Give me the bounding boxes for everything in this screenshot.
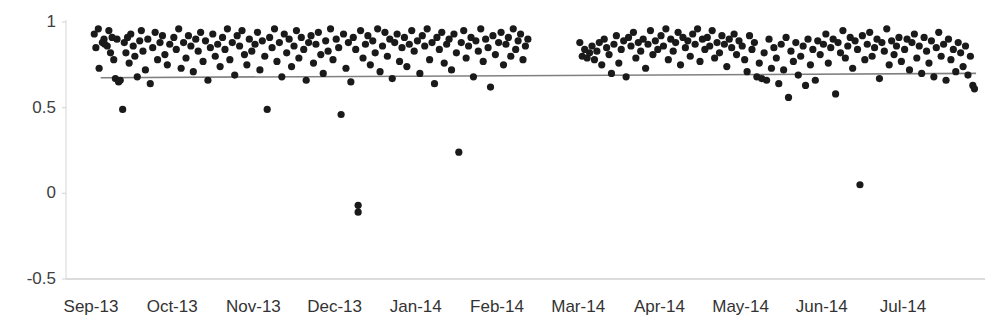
data-point bbox=[856, 181, 863, 188]
data-point bbox=[403, 63, 410, 70]
data-point bbox=[362, 41, 369, 48]
data-point bbox=[152, 29, 159, 36]
data-point bbox=[947, 56, 954, 63]
data-point bbox=[224, 25, 231, 32]
data-point bbox=[458, 39, 465, 46]
data-point bbox=[389, 75, 396, 82]
data-point bbox=[739, 42, 746, 49]
data-point bbox=[802, 82, 809, 89]
data-point bbox=[935, 29, 942, 36]
data-point bbox=[187, 42, 194, 49]
data-point bbox=[104, 42, 111, 49]
data-point bbox=[782, 34, 789, 41]
data-point bbox=[820, 41, 827, 48]
data-point bbox=[505, 34, 512, 41]
data-point bbox=[895, 34, 902, 41]
data-point bbox=[883, 25, 890, 32]
data-point bbox=[790, 58, 797, 65]
data-point bbox=[768, 65, 775, 72]
data-point bbox=[871, 44, 878, 51]
data-point bbox=[472, 37, 479, 44]
data-point bbox=[603, 44, 610, 51]
data-point bbox=[515, 37, 522, 44]
data-point bbox=[359, 54, 366, 61]
data-point bbox=[374, 25, 381, 32]
data-point bbox=[881, 48, 888, 55]
data-point bbox=[512, 46, 519, 53]
data-point bbox=[190, 68, 197, 75]
data-point bbox=[315, 29, 322, 36]
data-point bbox=[962, 42, 969, 49]
data-point bbox=[492, 51, 499, 58]
data-point bbox=[484, 44, 491, 51]
data-point bbox=[131, 53, 138, 60]
data-point bbox=[246, 36, 253, 43]
data-point bbox=[159, 32, 166, 39]
data-point bbox=[933, 44, 940, 51]
data-point bbox=[286, 36, 293, 43]
data-point bbox=[906, 66, 913, 73]
data-point bbox=[207, 44, 214, 51]
data-point bbox=[859, 32, 866, 39]
data-point bbox=[605, 51, 612, 58]
data-point bbox=[780, 66, 787, 73]
data-point bbox=[844, 42, 851, 49]
data-point bbox=[893, 42, 900, 49]
data-point bbox=[677, 61, 684, 68]
data-point bbox=[136, 37, 143, 44]
data-point bbox=[869, 53, 876, 60]
data-point bbox=[290, 42, 297, 49]
data-point bbox=[916, 42, 923, 49]
data-point bbox=[192, 36, 199, 43]
data-point bbox=[608, 70, 615, 77]
data-point bbox=[911, 30, 918, 37]
data-point bbox=[264, 106, 271, 113]
data-point bbox=[618, 46, 625, 53]
data-point bbox=[632, 54, 639, 61]
data-point bbox=[652, 37, 659, 44]
data-point bbox=[778, 41, 785, 48]
data-point bbox=[209, 30, 216, 37]
data-point bbox=[923, 48, 930, 55]
data-point bbox=[644, 41, 651, 48]
data-point bbox=[276, 39, 283, 46]
data-point bbox=[419, 32, 426, 39]
data-point bbox=[144, 36, 151, 43]
data-point bbox=[105, 27, 112, 34]
data-point bbox=[615, 60, 622, 67]
data-point bbox=[812, 77, 819, 84]
data-point bbox=[355, 209, 362, 216]
data-point bbox=[928, 37, 935, 44]
x-tick-label: Jul-14 bbox=[853, 298, 953, 315]
data-point bbox=[453, 49, 460, 56]
data-point bbox=[367, 61, 374, 68]
data-point bbox=[317, 51, 324, 58]
data-point bbox=[647, 27, 654, 34]
data-point bbox=[212, 53, 219, 60]
data-point bbox=[421, 42, 428, 49]
data-point bbox=[482, 36, 489, 43]
data-point bbox=[95, 25, 102, 32]
data-point bbox=[775, 80, 782, 87]
data-point bbox=[465, 42, 472, 49]
data-point bbox=[692, 41, 699, 48]
data-point bbox=[411, 48, 418, 55]
data-point bbox=[355, 202, 362, 209]
data-point bbox=[642, 65, 649, 72]
data-point bbox=[851, 37, 858, 44]
data-point bbox=[670, 48, 677, 55]
data-point bbox=[204, 77, 211, 84]
data-point bbox=[495, 39, 502, 46]
data-point bbox=[682, 44, 689, 51]
data-point bbox=[325, 48, 332, 55]
data-point bbox=[408, 27, 415, 34]
data-point bbox=[333, 36, 340, 43]
data-point bbox=[460, 27, 467, 34]
data-point bbox=[623, 73, 630, 80]
data-point bbox=[197, 29, 204, 36]
data-point bbox=[959, 63, 966, 70]
data-point bbox=[170, 34, 177, 41]
data-point bbox=[955, 39, 962, 46]
data-point bbox=[502, 41, 509, 48]
data-point bbox=[761, 49, 768, 56]
